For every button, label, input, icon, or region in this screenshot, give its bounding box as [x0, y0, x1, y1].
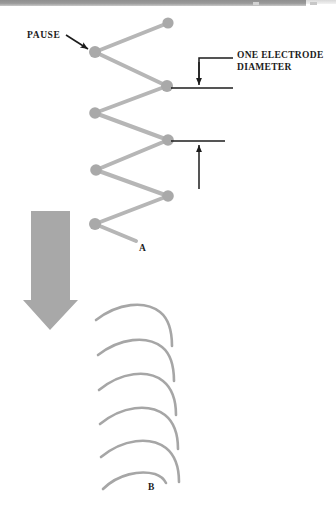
pause-node	[90, 164, 102, 176]
diagram-vector-layer	[0, 0, 336, 515]
pause-node	[162, 17, 173, 28]
weave-spacing-callout	[171, 141, 225, 189]
panel-b-crescent-group	[96, 305, 179, 489]
one-electrode-diameter-callout	[171, 58, 233, 88]
panel-b-label: B	[148, 482, 155, 492]
pause-node	[89, 218, 101, 230]
pause-label: PAUSE	[27, 30, 60, 40]
pause-pointer-arrow	[66, 35, 88, 49]
one-electrode-diameter-label: ONE ELECTRODEDIAMETER	[237, 50, 324, 73]
diagram-canvas: PAUSE ONE ELECTRODEDIAMETER A B	[0, 0, 336, 515]
pause-node	[89, 107, 101, 119]
crescent-arc-truncated	[103, 473, 166, 489]
pause-node	[162, 134, 174, 146]
dimension-leader-line	[199, 58, 233, 80]
panel-a-zigzag-group	[89, 17, 174, 241]
pause-node	[161, 80, 173, 92]
pause-node	[162, 190, 174, 202]
zigzag-path	[95, 23, 168, 224]
electrode-label-line-2: DIAMETER	[237, 62, 292, 72]
pause-node	[89, 46, 101, 58]
panel-a-label: A	[139, 243, 146, 253]
downward-transition-arrow	[23, 211, 78, 330]
zigzag-tail-segment	[95, 224, 136, 241]
crescent-arc	[100, 408, 178, 449]
electrode-label-line-1: ONE ELECTRODE	[237, 50, 324, 60]
crescent-arc	[101, 441, 179, 482]
